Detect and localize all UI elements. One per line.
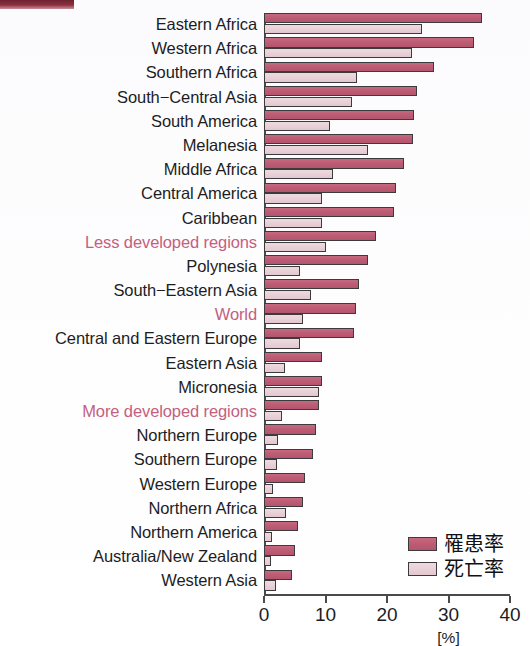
- row-bars: [264, 181, 530, 205]
- category-label: More developed regions: [0, 399, 264, 423]
- bar-chart: Eastern AfricaWestern AfricaSouthern Afr…: [0, 8, 530, 638]
- bar-mortality: [264, 363, 285, 373]
- x-axis-unit-label: [%]: [437, 629, 459, 646]
- category-label: South−Central Asia: [0, 85, 264, 109]
- chart-row: South−Central Asia: [0, 85, 530, 109]
- chart-row: Caribbean: [0, 206, 530, 230]
- row-bars: [264, 351, 530, 375]
- category-label: Northern America: [0, 520, 264, 544]
- bar-incidence: [264, 13, 482, 23]
- category-label: Eastern Asia: [0, 351, 264, 375]
- category-label: Western Africa: [0, 36, 264, 60]
- category-label: Western Asia: [0, 568, 264, 592]
- bar-mortality: [264, 484, 273, 494]
- chart-row: South America: [0, 109, 530, 133]
- chart-legend: 罹患率死亡率: [408, 531, 526, 581]
- bar-incidence: [264, 473, 305, 483]
- bar-incidence: [264, 303, 356, 313]
- bar-mortality: [264, 145, 368, 155]
- bar-mortality: [264, 411, 282, 421]
- bar-mortality: [264, 387, 319, 397]
- legend-label: 死亡率: [444, 559, 504, 579]
- bar-mortality: [264, 72, 357, 82]
- category-label: Australia/New Zealand: [0, 544, 264, 568]
- bar-incidence: [264, 207, 394, 217]
- chart-row: Middle Africa: [0, 157, 530, 181]
- legend-item: 死亡率: [408, 556, 526, 581]
- bar-incidence: [264, 424, 316, 434]
- bar-mortality: [264, 290, 311, 300]
- category-label: Caribbean: [0, 206, 264, 230]
- chart-row: Polynesia: [0, 254, 530, 278]
- bar-incidence: [264, 376, 322, 386]
- chart-row: Southern Europe: [0, 447, 530, 471]
- bar-mortality: [264, 24, 422, 34]
- chart-row: Eastern Asia: [0, 351, 530, 375]
- x-axis-tick-label: 20: [376, 604, 397, 626]
- bar-mortality: [264, 508, 286, 518]
- bar-incidence: [264, 183, 396, 193]
- category-label: South America: [0, 109, 264, 133]
- bar-mortality: [264, 556, 271, 566]
- bar-incidence: [264, 449, 313, 459]
- bar-incidence: [264, 37, 474, 47]
- x-axis-tick: [386, 596, 388, 603]
- row-bars: [264, 302, 530, 326]
- x-axis-tick: [325, 596, 327, 603]
- category-label: South−Eastern Asia: [0, 278, 264, 302]
- chart-row: Central America: [0, 181, 530, 205]
- bar-incidence: [264, 86, 417, 96]
- bar-incidence: [264, 497, 303, 507]
- chart-row: Western Europe: [0, 472, 530, 496]
- row-bars: [264, 85, 530, 109]
- chart-row: Central and Eastern Europe: [0, 326, 530, 350]
- chart-rows: Eastern AfricaWestern AfricaSouthern Afr…: [0, 12, 530, 593]
- bar-incidence: [264, 521, 298, 531]
- chart-row: Northern Europe: [0, 423, 530, 447]
- category-label: Eastern Africa: [0, 12, 264, 36]
- row-bars: [264, 254, 530, 278]
- row-bars: [264, 278, 530, 302]
- chart-row: Western Africa: [0, 36, 530, 60]
- chart-row: Southern Africa: [0, 60, 530, 84]
- bar-mortality: [264, 97, 352, 107]
- x-axis-tick-label: 40: [499, 604, 520, 626]
- legend-swatch-mortality: [408, 562, 437, 576]
- bar-mortality: [264, 266, 300, 276]
- chart-row: World: [0, 302, 530, 326]
- category-label: Polynesia: [0, 254, 264, 278]
- category-label: Micronesia: [0, 375, 264, 399]
- bar-incidence: [264, 328, 354, 338]
- category-label: Melanesia: [0, 133, 264, 157]
- bar-mortality: [264, 435, 278, 445]
- x-axis-tick: [509, 596, 511, 603]
- bar-mortality: [264, 121, 330, 131]
- category-label: Northern Europe: [0, 423, 264, 447]
- x-axis-tick: [263, 596, 265, 603]
- x-axis-tick-label: 0: [259, 604, 270, 626]
- bar-incidence: [264, 400, 319, 410]
- bar-mortality: [264, 169, 333, 179]
- row-bars: [264, 447, 530, 471]
- category-label: World: [0, 302, 264, 326]
- x-axis: 010203040[%]: [264, 594, 510, 595]
- row-bars: [264, 472, 530, 496]
- x-axis-tick-label: 30: [438, 604, 459, 626]
- row-bars: [264, 60, 530, 84]
- row-bars: [264, 326, 530, 350]
- x-axis-tick: [448, 596, 450, 603]
- chart-row: Eastern Africa: [0, 12, 530, 36]
- bar-incidence: [264, 279, 359, 289]
- chart-row: Melanesia: [0, 133, 530, 157]
- legend-label: 罹患率: [444, 534, 504, 554]
- bar-incidence: [264, 158, 404, 168]
- bar-incidence: [264, 352, 322, 362]
- bar-mortality: [264, 459, 277, 469]
- bar-mortality: [264, 532, 272, 542]
- bar-incidence: [264, 231, 376, 241]
- bar-mortality: [264, 338, 300, 348]
- chart-row: Northern Africa: [0, 496, 530, 520]
- category-label: Less developed regions: [0, 230, 264, 254]
- row-bars: [264, 109, 530, 133]
- row-bars: [264, 36, 530, 60]
